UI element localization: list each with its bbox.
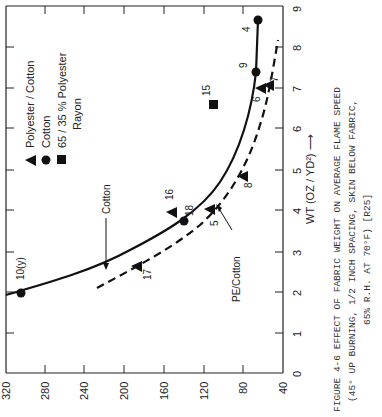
svg-text:320: 320 [0,382,12,400]
svg-text:8: 8 [243,182,254,188]
svg-text:Cotton: Cotton [101,185,112,214]
svg-text:7: 7 [269,76,280,82]
svg-text:7: 7 [291,86,303,92]
svg-text:8: 8 [291,45,303,51]
svg-text:2: 2 [291,290,303,296]
svg-text:16: 16 [164,188,175,200]
svg-text:1: 1 [291,331,303,337]
triangle-marker-icon [25,155,36,166]
svg-text:PE/Cotton: PE/Cotton [231,256,242,302]
svg-text:15: 15 [201,84,212,96]
svg-text:Cotton: Cotton [40,116,52,148]
svg-text:Rayon: Rayon [71,98,83,130]
svg-text:120: 120 [198,382,210,400]
svg-text:3: 3 [291,250,303,256]
weight-axis-title: WT (OZ / YD²) ⟶ [304,134,316,224]
figure-caption: FIGURE 4-6 EFFECT OF FABRIC WEIGHT ON AV… [332,87,373,412]
cotton-annotation: Cotton [101,185,112,270]
cotton-points: 10(y) 18 9 4 [15,16,263,298]
svg-text:(45° UP BURNING, 1/2 INCH SPAC: (45° UP BURNING, 1/2 INCH SPACING, SKIN … [347,100,358,402]
svg-text:280: 280 [39,382,51,400]
plot-frame [6,6,283,373]
pe-cotton-curve [97,40,278,288]
svg-text:200: 200 [118,382,130,400]
svg-text:9: 9 [291,6,303,12]
pe-cotton-annotation: PE/Cotton [216,204,242,302]
svg-text:80: 80 [237,382,249,394]
speed-tick-labels: 320 280 240 200 160 120 80 40 [0,382,289,400]
svg-text:9: 9 [238,62,249,68]
polyester-cotton-points: 17 16 5 8 6 7 [131,76,280,280]
svg-text:40: 40 [277,382,289,394]
legend: Polyester / Cotton Cotton 65 / 35 % Poly… [24,52,83,166]
svg-text:6: 6 [251,96,262,102]
square-marker-icon [57,155,66,164]
svg-text:65% R.H. AT 70°F) [R25]: 65% R.H. AT 70°F) [R25] [362,194,373,325]
svg-text:160: 160 [158,382,170,400]
flame-speed-chart: 320 280 240 200 160 120 80 40 0 1 2 3 4 … [0,0,382,417]
svg-text:18: 18 [184,204,195,216]
svg-text:4: 4 [291,208,303,214]
svg-text:5: 5 [291,168,303,174]
svg-text:65 / 35 % Polyester: 65 / 35 % Polyester [56,52,68,148]
svg-text:Polyester / Cotton: Polyester / Cotton [24,61,36,148]
circle-marker-icon [42,156,51,165]
svg-text:17: 17 [142,268,153,280]
svg-text:240: 240 [78,382,90,400]
polyester-rayon-points: 15 [201,84,218,109]
svg-text:0: 0 [291,371,303,377]
svg-text:6: 6 [291,126,303,132]
svg-text:5: 5 [209,220,220,226]
svg-text:FIGURE 4-6 EFFECT OF FABRIC: FIGURE 4-6 EFFECT OF FABRIC WEIGHT ON AV… [332,87,343,412]
svg-text:10(y): 10(y) [15,257,26,280]
svg-text:4: 4 [241,26,252,32]
weight-tick-labels: 0 1 2 3 4 5 6 7 8 9 [291,6,303,377]
